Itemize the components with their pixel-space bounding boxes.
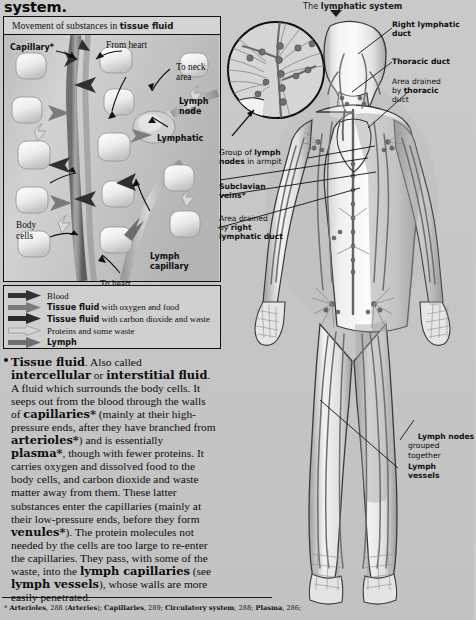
label-body-cells: Body cells [16, 220, 36, 242]
arrow-blood-icon [8, 290, 42, 301]
legend-label-tissue-fluid-co2: Tissue fluid with carbon dioxide and was… [47, 314, 210, 324]
bullet-icon [4, 358, 8, 362]
panel-title-prefix: Movement of substances in [12, 20, 120, 31]
panel-title-bold: tissue fluid [120, 21, 174, 31]
arrow-tissue-fluid-co2-icon [8, 313, 42, 324]
footnote: * Arterioles, 288 (Arteries); Capillarie… [4, 604, 304, 612]
panel-title: Movement of substances in tissue fluid [4, 17, 220, 35]
legend-row: Proteins and some waste [8, 325, 220, 337]
label-thoracic-duct: Thoracic duct [392, 57, 450, 66]
tissue-fluid-diagram-panel: Movement of substances in tissue fluid [3, 16, 221, 282]
arrow-proteins-icon [8, 325, 42, 336]
arrow-tissue-fluid-oxygen-icon [8, 302, 42, 313]
legend-label-tissue-fluid-oxygen: Tissue fluid with oxygen and food [47, 302, 179, 312]
legend-label-blood: Blood [47, 291, 69, 301]
label-area-drained-thoracic: Area drained by thoracic duct [392, 77, 441, 105]
arrow-lymph-icon [8, 337, 42, 348]
label-area-drained-right-lymphatic-duct: Area drained by right lymphatic duct [219, 214, 319, 242]
label-from-heart: From heart [106, 41, 147, 51]
page-running-title: system. [4, 0, 67, 15]
legend-row: Tissue fluid with carbon dioxide and was… [8, 313, 220, 325]
label-lymph-capillary: Lymph capillary [150, 252, 189, 271]
label-subclavian-veins: Subclavian veins* [219, 182, 266, 200]
legend-row: Blood [8, 290, 220, 302]
body-paragraph: Tissue fluid. Also called intercellular … [4, 356, 216, 604]
label-capillary: Capillary* [10, 43, 54, 53]
label-lymph-vessels: Lymph vessels [408, 462, 439, 480]
label-group-lymph-nodes: Group of lymph nodes in armpit [219, 148, 324, 166]
label-lymphatic: Lymphatic [157, 134, 203, 144]
body-paragraph-text: Tissue fluid. Also called intercellular … [4, 356, 216, 604]
footnote-rule [2, 597, 272, 598]
legend-key: Blood Tissue fluid with oxygen and food … [3, 285, 221, 349]
label-right-lymphatic-duct: Right lymphatic duct [392, 20, 460, 38]
legend-label-proteins: Proteins and some waste [47, 326, 135, 336]
legend-row: Tissue fluid with oxygen and food [8, 302, 220, 314]
legend-row: Lymph [8, 336, 220, 348]
legend-label-lymph: Lymph [47, 337, 77, 347]
